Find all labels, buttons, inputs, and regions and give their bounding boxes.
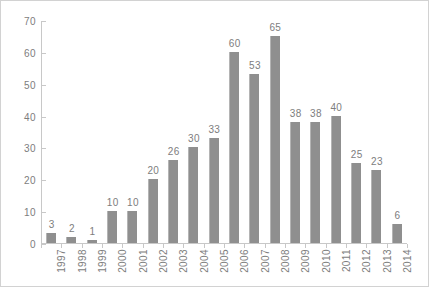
bar-value-label: 26: [168, 146, 180, 157]
bar-value-label: 1: [89, 226, 95, 237]
x-tick-mark: [102, 244, 103, 248]
x-axis-label: 2012: [361, 249, 372, 273]
x-tick-mark: [387, 244, 388, 248]
x-axis-label: 2005: [219, 249, 230, 273]
bar-value-label: 33: [208, 124, 220, 135]
x-axis-label: 2001: [138, 249, 149, 273]
x-tick-mark: [407, 244, 408, 248]
x-tick-mark: [143, 244, 144, 248]
bar-value-label: 40: [330, 102, 342, 113]
bar-value-label: 2: [69, 223, 75, 234]
y-tick-mark: [42, 244, 46, 245]
plot-area: 010203040506070 321101020263033605365383…: [41, 21, 415, 244]
x-tick-mark: [61, 244, 62, 248]
bar-value-label: 60: [229, 38, 241, 49]
x-axis-label: 2002: [158, 249, 169, 273]
bar[interactable]: 33: [209, 138, 219, 243]
bar-value-label: 53: [249, 60, 261, 71]
x-axis-label: 2014: [402, 249, 413, 273]
y-tick-label: 60: [24, 47, 36, 58]
x-axis-label: 2000: [117, 249, 128, 273]
x-tick-mark: [163, 244, 164, 248]
x-tick-mark: [82, 244, 83, 248]
y-tick-mark: [42, 53, 46, 54]
bar-value-label: 3: [49, 219, 55, 230]
x-tick-mark: [224, 244, 225, 248]
x-tick-mark: [122, 244, 123, 248]
y-tick-mark: [42, 117, 46, 118]
bar-value-label: 65: [269, 22, 281, 33]
y-tick-mark: [42, 21, 46, 22]
bar-value-label: 10: [127, 197, 139, 208]
x-tick-mark: [244, 244, 245, 248]
bar[interactable]: 60: [229, 52, 239, 243]
y-tick-mark: [42, 180, 46, 181]
y-tick-mark: [42, 148, 46, 149]
x-axis-label: 2009: [300, 249, 311, 273]
x-tick-mark: [305, 244, 306, 248]
bar[interactable]: 6: [392, 224, 402, 243]
bar[interactable]: 3: [46, 233, 56, 243]
x-axis-label: 1999: [97, 249, 108, 273]
y-tick-label: 20: [24, 175, 36, 186]
x-tick-mark: [183, 244, 184, 248]
bar[interactable]: 38: [310, 122, 320, 243]
bar[interactable]: 26: [168, 160, 178, 243]
bar-value-label: 38: [310, 108, 322, 119]
bar-value-label: 23: [371, 156, 383, 167]
x-tick-mark: [265, 244, 266, 248]
x-tick-mark: [41, 244, 42, 248]
bar[interactable]: 2: [66, 237, 76, 243]
x-axis-label: 1998: [77, 249, 88, 273]
x-axis-label: 2004: [199, 249, 210, 273]
x-axis-label: 2003: [178, 249, 189, 273]
x-tick-mark: [366, 244, 367, 248]
bar[interactable]: 23: [371, 170, 381, 243]
y-tick-label: 10: [24, 207, 36, 218]
bar-value-label: 30: [188, 133, 200, 144]
x-tick-mark: [346, 244, 347, 248]
x-tick-mark: [326, 244, 327, 248]
x-axis-label: 2011: [341, 249, 352, 272]
x-axis-label: 1997: [56, 249, 67, 273]
bar-value-label: 25: [351, 149, 363, 160]
bar[interactable]: 1: [87, 240, 97, 243]
y-tick-label: 0: [30, 239, 36, 250]
bar-value-label: 10: [107, 197, 119, 208]
y-tick-mark: [42, 212, 46, 213]
y-tick-label: 50: [24, 79, 36, 90]
x-axis-label: 2006: [239, 249, 250, 273]
bar[interactable]: 10: [127, 211, 137, 243]
x-tick-mark: [204, 244, 205, 248]
bar[interactable]: 10: [107, 211, 117, 243]
bar-value-label: 6: [394, 210, 400, 221]
bar-value-label: 38: [290, 108, 302, 119]
bar[interactable]: 53: [249, 74, 259, 243]
bar[interactable]: 20: [148, 179, 158, 243]
x-tick-mark: [285, 244, 286, 248]
bar-value-label: 20: [147, 165, 159, 176]
bar[interactable]: 65: [270, 36, 280, 243]
bar[interactable]: 38: [290, 122, 300, 243]
y-tick-label: 40: [24, 111, 36, 122]
y-axis-line: [41, 21, 42, 244]
y-tick-mark: [42, 85, 46, 86]
x-axis-label: 2007: [260, 249, 271, 273]
x-axis-label: 2008: [280, 249, 291, 273]
bar-chart: 010203040506070 321101020263033605365383…: [0, 0, 429, 287]
y-tick-label: 70: [24, 16, 36, 27]
bar[interactable]: 25: [351, 163, 361, 243]
x-axis-label: 2010: [321, 249, 332, 273]
bar[interactable]: 40: [331, 116, 341, 243]
y-tick-label: 30: [24, 143, 36, 154]
bar[interactable]: 30: [188, 147, 198, 243]
x-axis-label: 2013: [382, 249, 393, 273]
